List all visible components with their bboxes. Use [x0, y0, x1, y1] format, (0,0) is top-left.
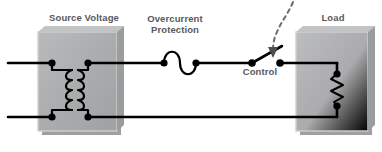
- control-actuation-arrow: [268, 2, 293, 58]
- node-fuse-left: [160, 59, 167, 66]
- node-source-bottom-left: [48, 113, 55, 120]
- label-source-voltage: Source Voltage: [28, 12, 140, 23]
- label-load: Load: [303, 12, 363, 23]
- label-control: Control: [225, 66, 295, 77]
- node-load-top: [333, 70, 340, 77]
- node-source-bottom-right: [84, 113, 91, 120]
- node-source-top-left: [48, 59, 55, 66]
- fuse-s-curve: [164, 52, 196, 75]
- overcurrent-protection-fuse: [164, 52, 196, 75]
- node-fuse-right: [192, 59, 199, 66]
- electrical-circuit-diagram: Source Voltage Overcurrent Protection Co…: [0, 0, 382, 152]
- dashed-control-line: [273, 2, 293, 50]
- label-overcurrent-protection: Overcurrent Protection: [133, 13, 217, 35]
- node-source-top-right: [84, 59, 91, 66]
- node-load-bottom: [333, 102, 340, 109]
